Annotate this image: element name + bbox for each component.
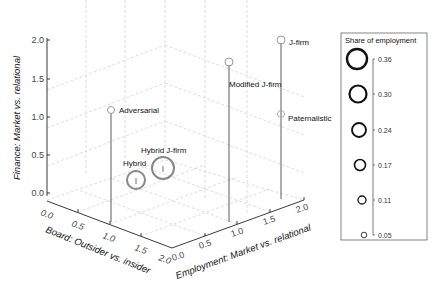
- z-axis-label: Finance: Market vs. relational: [11, 55, 22, 180]
- board-tick: 0.5: [70, 218, 86, 232]
- legend-title: Share of employment: [345, 36, 417, 45]
- employment-axis-label: Employment: Market vs. relational: [174, 221, 313, 281]
- emp-tick: 1.5: [262, 214, 277, 227]
- label-hybrid-jfirm: Hybrid J-firm: [141, 146, 187, 155]
- legend-value: 0.05: [378, 232, 392, 239]
- employment-axis: 0.0 0.5 1.0 1.5 2.0 Employment: Market v…: [171, 197, 313, 281]
- legend-value: 0.30: [378, 91, 392, 98]
- z-tick: 1.5: [31, 74, 44, 84]
- emp-tick: 0.5: [198, 238, 213, 251]
- label-paternalistic: Paternalistic: [288, 114, 332, 123]
- bubble-modified-jfirm: [225, 58, 233, 66]
- z-tick: 2.0: [31, 35, 44, 45]
- bubble-adversarial: [108, 107, 115, 114]
- emp-tick: 0.0: [171, 250, 186, 263]
- board-tick: 1.0: [101, 230, 116, 244]
- bubble-3d-chart: 2.0 1.5 1.0 0.5 0.0 Finance: Market vs. …: [0, 0, 435, 283]
- board-tick: 1.5: [133, 242, 149, 256]
- label-hybrid: Hybrid: [123, 159, 146, 168]
- z-tick: 1.0: [31, 112, 44, 122]
- label-jfirm: J-firm: [289, 38, 309, 47]
- label-modified-jfirm: Modified J-firm: [229, 80, 282, 89]
- legend-value: 0.24: [378, 127, 392, 134]
- board-tick: 0.0: [39, 207, 54, 221]
- z-tick: 0.5: [31, 150, 44, 160]
- z-tick: 0.0: [31, 188, 44, 198]
- legend: Share of employment 0.36 0.30 0.24 0.17 …: [341, 33, 427, 240]
- data-points: Adversarial Hybrid Hybrid J-firm Modifie…: [108, 36, 332, 222]
- board-axis: 0.0 0.5 1.0 1.5 2.0 Board: Outsider vs. …: [39, 201, 172, 276]
- legend-value: 0.11: [378, 197, 391, 204]
- z-axis: 2.0 1.5 1.0 0.5 0.0 Finance: Market vs. …: [11, 35, 50, 198]
- label-adversarial: Adversarial: [119, 106, 159, 115]
- legend-value: 0.17: [378, 162, 392, 169]
- emp-tick: 1.0: [230, 226, 245, 239]
- grid-lines: [47, 0, 304, 236]
- bubble-jfirm: [277, 36, 285, 44]
- legend-value: 0.36: [378, 56, 392, 63]
- emp-tick: 2.0: [295, 202, 310, 215]
